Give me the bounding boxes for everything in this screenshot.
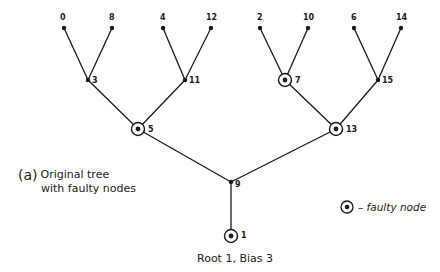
- node-dot: [334, 127, 339, 132]
- figure-caption: (a) Original tree with faulty nodes: [18, 168, 136, 196]
- node-label: 0: [60, 13, 66, 22]
- node-dot: [306, 26, 310, 30]
- node-label: 3: [92, 76, 98, 85]
- edge-11-5: [138, 80, 185, 129]
- node-11: 11: [183, 76, 201, 85]
- node-dot: [183, 78, 187, 82]
- node-0: 0: [60, 13, 66, 30]
- node-dot: [161, 26, 165, 30]
- node-label: 15: [382, 76, 394, 85]
- node-dot: [110, 26, 114, 30]
- edge-15-13: [336, 80, 378, 129]
- caption-line-2: with faulty nodes: [41, 182, 136, 195]
- node-dot: [258, 26, 262, 30]
- edge-10-7: [285, 28, 308, 80]
- legend: – faulty node: [340, 200, 426, 214]
- edge-7-13: [285, 80, 336, 129]
- node-dot: [136, 127, 141, 132]
- node-dot: [229, 180, 233, 184]
- edge-8-3: [88, 28, 112, 80]
- node-dot: [86, 78, 90, 82]
- node-label: 8: [109, 13, 115, 22]
- edge-13-9: [231, 129, 336, 182]
- caption-label: (a): [18, 168, 38, 182]
- node-label: 6: [351, 13, 357, 22]
- edge-12-11: [185, 28, 211, 80]
- node-dot: [62, 26, 66, 30]
- edge-2-7: [260, 28, 285, 80]
- node-13: 13: [330, 123, 358, 136]
- edge-4-11: [163, 28, 185, 80]
- node-6: 6: [351, 13, 357, 30]
- node-label: 4: [160, 13, 166, 22]
- node-1: 1: [225, 230, 248, 243]
- root-caption: Root 1, Bias 3: [180, 252, 290, 265]
- legend-text: – faulty node: [358, 201, 426, 213]
- node-label: 1: [241, 231, 247, 240]
- node-label: 5: [148, 125, 154, 134]
- node-label: 13: [346, 125, 357, 134]
- node-8: 8: [109, 13, 115, 30]
- node-5: 5: [132, 123, 155, 136]
- node-4: 4: [160, 13, 166, 30]
- node-label: 9: [235, 180, 241, 189]
- node-dot: [376, 78, 380, 82]
- node-14: 14: [396, 13, 408, 30]
- node-label: 7: [295, 76, 301, 85]
- edge-14-15: [378, 28, 401, 80]
- node-label: 10: [303, 13, 315, 22]
- edge-3-5: [88, 80, 138, 129]
- node-12: 12: [206, 13, 217, 30]
- edge-5-9: [138, 129, 231, 182]
- caption-line-1: Original tree: [41, 168, 110, 182]
- node-7: 7: [279, 74, 301, 87]
- node-10: 10: [303, 13, 315, 30]
- tree-diagram: 0841221061431171551391: [0, 0, 440, 272]
- node-label: 11: [189, 76, 201, 85]
- edge-0-3: [64, 28, 88, 80]
- node-dot: [209, 26, 213, 30]
- node-label: 2: [257, 13, 263, 22]
- edge-6-15: [354, 28, 378, 80]
- faulty-node-icon: [340, 200, 354, 214]
- node-2: 2: [257, 13, 263, 30]
- node-dot: [229, 234, 234, 239]
- node-dot: [352, 26, 356, 30]
- node-dot: [399, 26, 403, 30]
- node-dot: [283, 78, 288, 83]
- node-3: 3: [86, 76, 98, 85]
- node-label: 14: [396, 13, 408, 22]
- node-label: 12: [206, 13, 217, 22]
